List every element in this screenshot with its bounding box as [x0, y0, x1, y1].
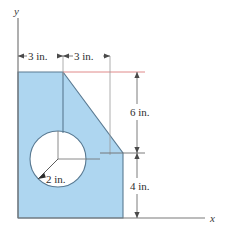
dimension-label-4in: 4 in.: [130, 180, 150, 192]
plate-shape: [18, 72, 123, 218]
dimension-6in: 6 in.: [128, 72, 160, 153]
dimension-3in-left: 3 in.: [18, 48, 63, 63]
y-axis-label: y: [13, 5, 19, 17]
dimension-label-6in: 6 in.: [130, 106, 150, 118]
arrow-right: [57, 53, 63, 58]
arrow-top: [134, 72, 139, 78]
arrow-bottom: [134, 147, 139, 153]
arrow-bottom: [134, 212, 139, 218]
arrow-left: [18, 53, 24, 58]
x-axis-label: x: [209, 212, 215, 224]
engineering-diagram: y x 3 in. 3 in.: [0, 0, 229, 246]
arrow-right: [104, 53, 110, 58]
dimension-4in: 4 in.: [128, 153, 160, 218]
dimension-label-3in-left: 3 in.: [28, 50, 48, 62]
dimension-label-3in-right: 3 in.: [74, 50, 94, 62]
arrow-top: [134, 153, 139, 159]
arrow-left: [63, 53, 69, 58]
dimension-label-2in: 2 in.: [46, 173, 66, 185]
dimension-3in-right: 3 in.: [63, 48, 110, 63]
